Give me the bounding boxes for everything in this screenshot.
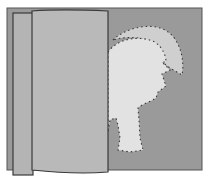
- folded-flap: [32, 10, 108, 173]
- paper-fold-diagram: [0, 0, 211, 178]
- left-strip: [13, 13, 33, 175]
